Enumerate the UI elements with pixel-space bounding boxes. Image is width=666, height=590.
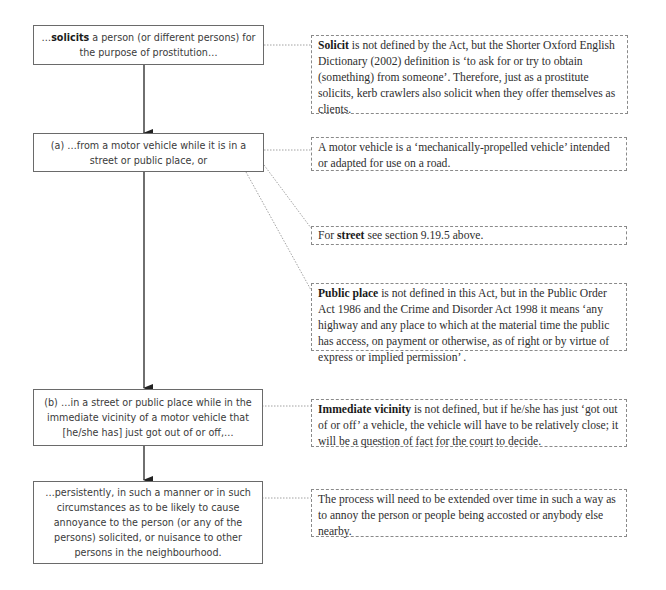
term-solicits: solicits [51,32,89,43]
note-persistently: The process will need to be extended ove… [311,489,627,537]
note-text: see section 9.19.5 above. [364,229,483,242]
flow-box-motor-vehicle: (a) …from a motor vehicle while it is in… [33,133,264,172]
term-public-place: Public place [318,287,378,300]
note-immediate-vicinity: Immediate vicinity is not defined, but i… [311,399,627,447]
flow-text: … [42,32,52,43]
flow-text: (a) …from a motor vehicle while it is in… [40,138,257,168]
flow-text: a person (or different persons) for the … [79,32,255,58]
term-immediate-vicinity: Immediate vicinity [318,403,411,416]
note-public-place: Public place is not defined in this Act,… [311,283,627,351]
note-motor-vehicle: A motor vehicle is a ‘mechanically-prope… [311,137,627,171]
note-solicit: Solicit is not defined by the Act, but t… [311,35,628,114]
flow-box-solicits: …solicits a person (or different persons… [33,25,264,65]
note-text: For [318,229,337,242]
flow-box-immediate-vicinity: (b) …in a street or public place while i… [33,389,263,446]
note-street: For street see section 9.19.5 above. [311,226,627,245]
note-text: The process will need to be extended ove… [318,493,616,538]
flow-box-persistently: …persistently, in such a manner or in su… [33,481,263,564]
flow-text: …persistently, in such a manner or in su… [40,485,256,560]
term-solicit: Solicit [318,39,349,52]
flow-text: (b) …in a street or public place while i… [40,395,256,440]
note-text: is not defined by the Act, but the Short… [318,39,615,116]
term-street: street [337,229,364,242]
note-text: A motor vehicle is a ‘mechanically-prope… [318,141,610,170]
